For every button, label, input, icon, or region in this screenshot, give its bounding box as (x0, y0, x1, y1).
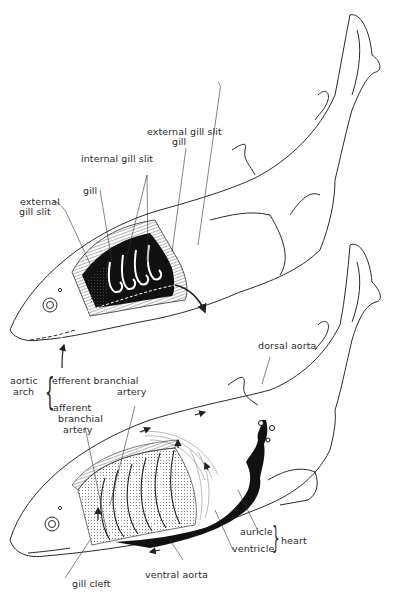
label-external-gill-slit-left-2: gill slit (19, 206, 51, 217)
label-afferent-branchial-artery-2: branchial (58, 413, 103, 424)
label-efferent-branchial-artery-1: efferent branchial (52, 375, 139, 386)
label-afferent-branchial-artery-3: artery (63, 424, 92, 435)
label-afferent-branchial-artery-1: afferent (53, 402, 91, 413)
top-shark-outline (10, 15, 380, 341)
label-internal-gill-slit: internal gill slit (81, 153, 153, 164)
label-gill-top: gill (172, 136, 186, 147)
label-aortic-arch-1: aortic (10, 375, 38, 386)
label-auricle: auricle (240, 526, 273, 537)
label-gill-left: gill (83, 185, 97, 196)
label-dorsal-aorta: dorsal aorta (258, 340, 316, 351)
label-ventricle: ventricle (232, 543, 274, 554)
label-heart: heart (281, 535, 307, 546)
shark-gill-diagram: external gill slit gill internal gill sl… (0, 0, 394, 595)
top-gill-chamber (60, 220, 205, 368)
label-aortic-arch-2: arch (13, 386, 34, 397)
label-gill-cleft: gill cleft (72, 578, 111, 589)
heart-brace: } (272, 523, 280, 553)
label-efferent-branchial-artery-2: artery (117, 386, 146, 397)
label-ventral-aorta: ventral aorta (145, 569, 208, 580)
top-shark-drawing (0, 0, 394, 595)
